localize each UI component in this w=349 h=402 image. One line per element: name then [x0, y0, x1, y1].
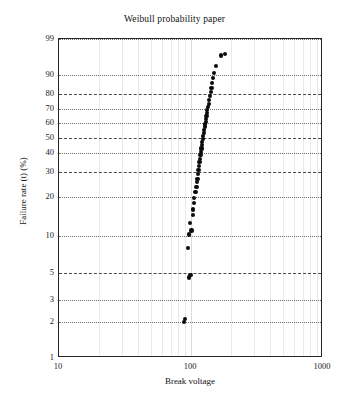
y-tick-label: 60: [10, 117, 54, 127]
data-point: [223, 52, 227, 56]
data-point: [183, 317, 187, 321]
data-point: [196, 172, 200, 176]
gridline-y: [59, 109, 321, 110]
y-axis-tick-labels: 999080706050403020105321: [8, 38, 54, 357]
data-point: [219, 53, 223, 57]
data-point: [186, 246, 190, 250]
gridline-y: [59, 138, 321, 139]
gridline-y: [59, 94, 321, 95]
x-tick-label: 1000: [314, 361, 331, 371]
data-point: [207, 98, 211, 102]
y-tick-label: 50: [10, 132, 54, 142]
gridline-y: [59, 197, 321, 198]
data-point: [214, 64, 218, 68]
y-tick-label: 1: [10, 352, 54, 362]
data-point: [197, 160, 201, 164]
data-point: [209, 86, 213, 90]
gridline-y: [59, 300, 321, 301]
plot-area: [58, 38, 322, 357]
data-point: [211, 76, 215, 80]
gridline-y: [59, 172, 321, 173]
y-tick-label: 10: [10, 230, 54, 240]
weibull-probability-chart: Weibull probability paper 99908070605040…: [0, 0, 349, 402]
x-axis-tick-labels: 101001000: [58, 361, 322, 375]
data-point: [187, 232, 191, 236]
data-point: [194, 185, 198, 189]
data-point: [191, 213, 195, 217]
y-tick-label: 5: [10, 267, 54, 277]
y-axis-title: Failure rate (t) (%): [18, 121, 28, 261]
gridline-y: [59, 322, 321, 323]
data-point: [199, 146, 203, 150]
gridline-y: [59, 39, 321, 40]
y-tick-label: 40: [10, 147, 54, 157]
x-tick-label: 100: [184, 361, 197, 371]
data-point: [193, 190, 197, 194]
chart-title: Weibull probability paper: [0, 14, 349, 24]
x-tick-label: 10: [54, 361, 63, 371]
y-tick-label: 70: [10, 103, 54, 113]
data-point: [188, 273, 192, 277]
data-point: [192, 196, 196, 200]
gridline-y: [59, 75, 321, 76]
y-tick-label: 3: [10, 294, 54, 304]
data-point: [208, 94, 212, 98]
y-tick-label: 30: [10, 166, 54, 176]
data-point: [191, 207, 195, 211]
x-axis-title: Break voltage: [58, 376, 322, 386]
gridline-y: [59, 123, 321, 124]
data-point: [207, 102, 211, 106]
y-tick-label: 90: [10, 69, 54, 79]
data-point: [192, 201, 196, 205]
gridline-y: [59, 153, 321, 154]
data-point: [210, 81, 214, 85]
y-tick-label: 80: [10, 88, 54, 98]
y-tick-label: 20: [10, 191, 54, 201]
y-tick-label: 2: [10, 316, 54, 326]
data-point: [209, 90, 213, 94]
y-tick-label: 99: [10, 33, 54, 43]
data-point: [198, 157, 202, 161]
data-point: [197, 164, 201, 168]
data-point: [196, 168, 200, 172]
data-point: [195, 177, 199, 181]
data-point: [189, 228, 193, 232]
